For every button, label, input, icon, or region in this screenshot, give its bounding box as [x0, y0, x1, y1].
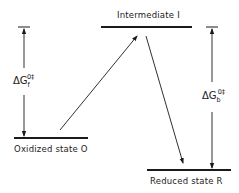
- energy-diagram: Intermediate I Oxidized state O Reduced …: [0, 0, 239, 193]
- forward-subscript: f: [28, 81, 30, 89]
- backward-superscript: 0‡: [218, 88, 225, 96]
- oxidized-level-label: Oxidized state O: [14, 144, 88, 154]
- intermediate-level-label: Intermediate I: [117, 10, 180, 20]
- oxidized-to-intermediate-arrow: [60, 36, 137, 130]
- intermediate-to-reduced-arrow: [146, 36, 183, 163]
- forward-barrier-label: ΔGf0‡: [13, 73, 34, 89]
- backward-barrier-label: ΔGb0‡: [202, 88, 225, 104]
- forward-superscript: 0‡: [27, 73, 34, 81]
- reduced-level-label: Reduced state R: [150, 176, 223, 186]
- delta-g-symbol: ΔG: [202, 90, 217, 101]
- delta-g-symbol: ΔG: [13, 75, 28, 86]
- backward-subscript: b: [217, 96, 221, 104]
